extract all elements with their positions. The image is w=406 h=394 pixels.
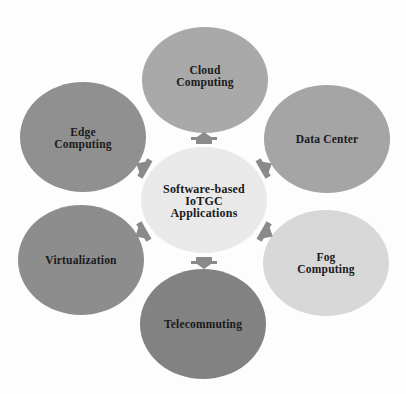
diagram-canvas: Cloud Computing Data Center Fog Computin… — [0, 0, 406, 394]
node-circle-telecommuting — [140, 269, 266, 379]
node-circle-virtualization — [18, 205, 144, 315]
node-circle-datacenter — [264, 85, 390, 193]
arrow-down-icon — [191, 257, 217, 269]
arrow-up-icon — [191, 132, 217, 144]
node-circle-cloud — [142, 27, 268, 133]
diagram-graphic — [0, 0, 406, 394]
center-hub-circle — [141, 147, 267, 253]
node-circle-fog — [263, 210, 389, 316]
node-circle-edge — [20, 82, 146, 192]
